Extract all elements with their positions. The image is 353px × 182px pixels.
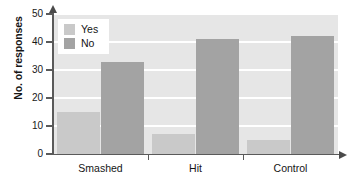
bar-hit-no — [196, 39, 239, 154]
legend: Yes No — [58, 19, 109, 54]
y-axis-arrow-icon — [49, 5, 57, 13]
x-axis-line — [52, 154, 340, 156]
bar-control-no — [291, 36, 334, 154]
legend-swatch-yes-icon — [64, 24, 75, 35]
y-axis-tick-label: 20 — [19, 92, 43, 103]
legend-swatch-no-icon — [64, 38, 75, 49]
x-axis-arrow-icon — [339, 151, 347, 159]
y-axis-tick-label: 50 — [19, 8, 43, 19]
bar-control-yes — [247, 140, 290, 154]
y-axis-tick-label: 30 — [19, 64, 43, 75]
y-axis-line — [52, 12, 54, 155]
x-axis-category-label: Hit — [148, 162, 243, 174]
y-axis-tick-label: 10 — [19, 120, 43, 131]
bar-smashed-yes — [57, 112, 100, 154]
legend-item-no: No — [64, 38, 98, 49]
x-axis-category-label: Smashed — [53, 162, 148, 174]
x-axis-category-label: Control — [243, 162, 338, 174]
x-axis-tick — [148, 154, 149, 160]
x-axis-tick — [243, 154, 244, 160]
legend-label-yes: Yes — [81, 24, 98, 35]
bar-smashed-no — [101, 62, 144, 154]
y-axis-tick-label: 40 — [19, 36, 43, 47]
bar-hit-yes — [152, 134, 195, 154]
bar-chart: No. of responses 01020304050 SmashedHitC… — [0, 0, 353, 182]
legend-label-no: No — [81, 38, 94, 49]
y-axis-tick-label: 0 — [19, 148, 43, 159]
legend-item-yes: Yes — [64, 24, 98, 35]
